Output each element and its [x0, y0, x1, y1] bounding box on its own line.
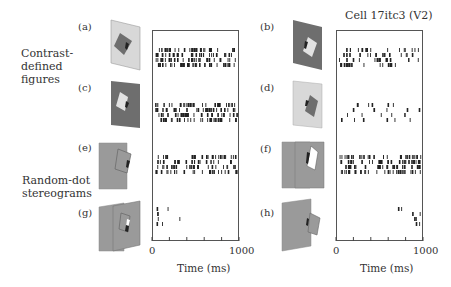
right-axis-title: Time (ms): [360, 262, 413, 274]
x-axis-ticks: [0, 0, 451, 287]
right-tick-0: 0: [333, 245, 339, 256]
left-tick-0: 0: [149, 245, 155, 256]
right-tick-1000: 1000: [413, 245, 438, 256]
left-tick-1000: 1000: [229, 245, 254, 256]
left-axis-title: Time (ms): [177, 262, 230, 274]
